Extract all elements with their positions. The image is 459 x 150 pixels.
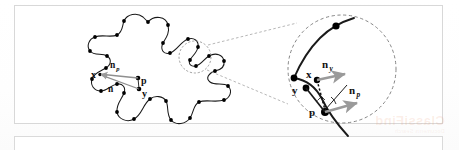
cone-line-bottom (207, 70, 288, 104)
label-y-inset: y (292, 84, 298, 96)
label-x-left: x (91, 70, 96, 80)
label-ny-inset: n (322, 58, 328, 70)
inset-control-point-left (291, 75, 298, 82)
left-blob-group: x n p n p y (88, 14, 230, 123)
inset-curve (294, 18, 354, 136)
magnifier-cone (207, 23, 297, 104)
segment-x-p-inset (317, 80, 325, 110)
label-x-inset: x (306, 68, 312, 80)
figure-page: ClassiFind Documents Search (0, 0, 459, 150)
figure-drawing: x n p n p y (0, 0, 459, 150)
label-p-left: p (141, 75, 147, 86)
label-ny-inset-sub: y (329, 64, 334, 73)
label-np-inset: n (349, 84, 355, 96)
inset-control-point-top (332, 22, 339, 29)
label-y-left: y (142, 88, 147, 99)
label-p-inset: p (309, 106, 315, 118)
source-region-circle (179, 41, 211, 73)
inset-group: n y x y n p p (288, 15, 396, 136)
cone-line-top (208, 23, 297, 45)
label-ny-left: n (108, 84, 114, 94)
label-np-left-sub: p (115, 65, 120, 72)
label-np-inset-sub: p (356, 90, 361, 99)
label-np-left: n (110, 60, 116, 70)
vector-ny-inset (317, 74, 345, 80)
